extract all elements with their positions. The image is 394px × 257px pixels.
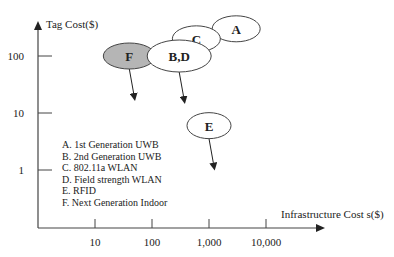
point-e: E <box>187 113 231 139</box>
y-tick-label: 10 <box>13 107 25 119</box>
legend-entry: F. Next Generation Indoor <box>62 197 168 208</box>
y-axis-arrow-icon <box>34 21 42 30</box>
legend-entry: B. 2nd Generation UWB <box>62 151 162 162</box>
x-axis-label: Infrastructure Cost s($) <box>281 208 384 221</box>
point-label: F <box>125 49 133 64</box>
point-b-d: B,D <box>147 40 211 72</box>
x-tick-label: 10 <box>90 236 102 248</box>
legend-entry: C. 802.11a WLAN <box>62 162 138 173</box>
y-tick-label: 100 <box>8 50 25 62</box>
legend-entry: A. 1st Generation UWB <box>62 139 159 150</box>
y-axis-label: Tag Cost($) <box>46 18 98 31</box>
legend-entry: E. RFID <box>62 185 96 196</box>
y-tick-label: 1 <box>19 164 25 176</box>
x-tick-label: 10,000 <box>251 236 282 248</box>
trend-arrow <box>129 69 134 97</box>
x-tick-label: 100 <box>144 236 161 248</box>
point-label: E <box>205 119 214 134</box>
chart: Tag Cost($) Infrastructure Cost s($) 100… <box>0 0 394 257</box>
chart-svg: Tag Cost($) Infrastructure Cost s($) 100… <box>0 0 394 257</box>
legend-entry: D. Field strength WLAN <box>62 174 162 185</box>
trend-arrow <box>209 139 214 167</box>
x-tick-label: 1,000 <box>197 236 222 248</box>
trend-arrow <box>179 72 184 100</box>
x-axis-arrow-icon <box>316 224 325 232</box>
point-label: B,D <box>169 49 190 64</box>
point-label: A <box>232 22 242 37</box>
